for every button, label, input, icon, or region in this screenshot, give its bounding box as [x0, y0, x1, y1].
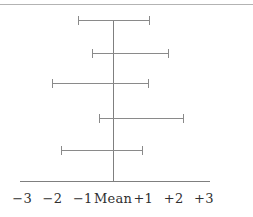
- x-tick-label-2: +2: [164, 191, 184, 207]
- interval-bar-2-left-cap: [92, 49, 93, 58]
- x-tick-label-3: −3: [12, 191, 32, 207]
- interval-bar-1-left-cap: [78, 16, 79, 25]
- interval-bar-3-right-cap: [148, 79, 149, 88]
- interval-bar-4: [99, 118, 182, 119]
- interval-bar-1-right-cap: [149, 16, 150, 25]
- interval-bar-4-right-cap: [183, 114, 184, 123]
- x-tick-label-1: −1: [73, 191, 93, 207]
- interval-bar-1: [78, 20, 149, 21]
- interval-bar-5-right-cap: [142, 146, 143, 155]
- interval-bar-5-left-cap: [61, 146, 62, 155]
- interval-bar-3: [52, 83, 147, 84]
- confidence-interval-figure: −3−2−1Mean+1+2+3: [0, 0, 253, 217]
- interval-bar-2-right-cap: [168, 49, 169, 58]
- interval-plot-area: [0, 0, 253, 217]
- interval-bar-4-left-cap: [99, 114, 100, 123]
- x-tick-label-1: +1: [134, 191, 154, 207]
- x-axis-labels: −3−2−1Mean+1+2+3: [0, 191, 253, 211]
- x-tick-label-Mean: Mean: [94, 191, 132, 207]
- x-tick-label-2: −2: [43, 191, 63, 207]
- mean-vertical-line: [113, 20, 114, 181]
- interval-bar-2: [92, 53, 168, 54]
- x-tick-label-3: +3: [194, 191, 214, 207]
- interval-bar-3-left-cap: [52, 79, 53, 88]
- x-axis-line: [20, 181, 210, 182]
- interval-bar-5: [61, 150, 141, 151]
